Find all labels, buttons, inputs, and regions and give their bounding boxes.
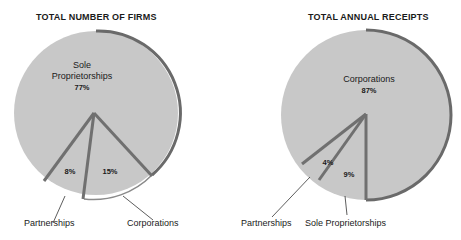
left-slice-pct-corporations: 15% [100, 167, 120, 176]
right-main-label: Corporations [334, 74, 404, 84]
left-callout-corporations: Corporations [127, 218, 179, 228]
right-slice-pct-partnerships: 4% [320, 158, 336, 167]
right-main-pct: 87% [359, 86, 379, 95]
left-callout-partnerships: Partnerships [24, 218, 75, 228]
left-chart-title: TOTAL NUMBER OF FIRMS [36, 12, 157, 22]
right-pie [272, 30, 451, 217]
right-callout-partnerships: Partnerships [241, 218, 292, 228]
left-slice-pct-partnerships: 8% [62, 167, 78, 176]
left-main-label-line1: Sole [52, 60, 112, 70]
left-main-pct: 77% [72, 83, 92, 92]
right-slice-pct-sole-proprietorships: 9% [341, 170, 357, 179]
pie-charts-graphic [0, 0, 461, 240]
left-main-label-line2: Proprietorships [42, 71, 122, 81]
right-chart-title: TOTAL ANNUAL RECEIPTS [308, 12, 429, 22]
right-callout-sole-proprietorships: Sole Proprietorships [305, 218, 386, 228]
